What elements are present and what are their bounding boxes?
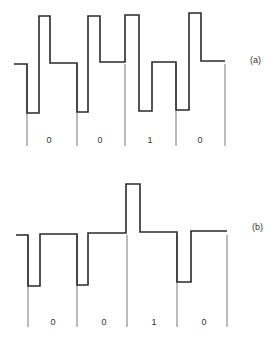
- bit-label: 0: [197, 135, 202, 145]
- waveform-b: [16, 184, 227, 286]
- boundary-lines-b: [28, 235, 227, 327]
- bit-label: 0: [201, 317, 206, 327]
- bit-label: 0: [46, 135, 51, 145]
- panel-label-a: (a): [250, 55, 261, 65]
- panel-a: 0 0 1 0 (a): [14, 13, 261, 146]
- waveform-diagram: 0 0 1 0 (a) 0 0 1 0 (b): [0, 0, 276, 344]
- bit-labels-a: 0 0 1 0: [46, 135, 202, 145]
- boundary-lines-a: [27, 64, 225, 146]
- panel-b: 0 0 1 0 (b): [16, 184, 263, 327]
- bit-label: 1: [147, 135, 152, 145]
- bit-label: 0: [101, 317, 106, 327]
- bit-labels-b: 0 0 1 0: [50, 317, 206, 327]
- waveform-a: [14, 13, 225, 113]
- bit-label: 0: [50, 317, 55, 327]
- panel-label-b: (b): [252, 222, 263, 232]
- bit-label: 0: [97, 135, 102, 145]
- bit-label: 1: [151, 317, 156, 327]
